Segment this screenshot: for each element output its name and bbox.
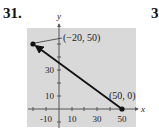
x-tick-label: 50 <box>118 114 128 124</box>
x-tick-label: 30 <box>93 114 103 124</box>
endpoint-marker <box>30 41 35 46</box>
y-tick-label: 30 <box>45 65 55 75</box>
endpoint-marker <box>119 106 124 111</box>
coordinate-plot: x y -10 10 30 50 10 30 (−20, 50) (50, 0) <box>0 0 159 138</box>
x-tick-label: 10 <box>68 114 78 124</box>
y-axis-label: y <box>56 11 61 21</box>
y-tick-label: 10 <box>45 91 55 101</box>
point-label-end: (50, 0) <box>109 90 136 102</box>
x-axis-label: x <box>140 104 145 114</box>
point-label-start: (−20, 50) <box>63 32 100 44</box>
x-tick-label: -10 <box>40 114 52 124</box>
